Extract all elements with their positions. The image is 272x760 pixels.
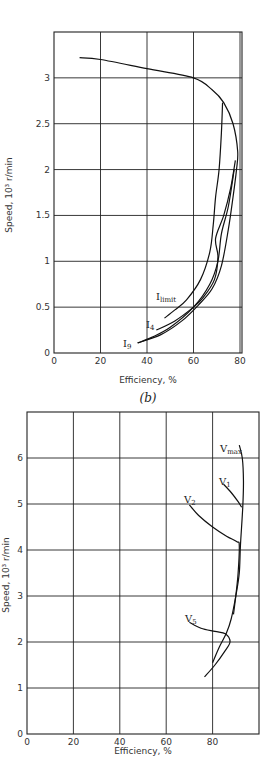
x-axis-label: Efficiency, % bbox=[114, 746, 172, 756]
x-axis-label: Efficiency, % bbox=[119, 375, 177, 385]
y-tick-label: 3 bbox=[17, 591, 23, 601]
series-label: I9 bbox=[123, 338, 131, 351]
y-tick-label: 0 bbox=[17, 729, 23, 739]
x-tick-label: 80 bbox=[207, 737, 219, 747]
plot-frame bbox=[54, 32, 242, 353]
x-tick-label: 80 bbox=[234, 356, 246, 366]
y-axis-label: Speed, 10³ r/min bbox=[4, 157, 14, 233]
x-tick-label: 40 bbox=[141, 356, 153, 366]
y-tick-label: 5 bbox=[17, 499, 23, 509]
series-label: V5 bbox=[184, 613, 197, 626]
curve-v-2 bbox=[189, 505, 239, 614]
x-tick-label: 20 bbox=[68, 737, 80, 747]
series-label: V1 bbox=[218, 476, 231, 489]
chart-subtitle: (b) bbox=[139, 391, 156, 405]
x-tick-label: 0 bbox=[51, 356, 57, 366]
curve-v-5 bbox=[189, 622, 230, 677]
chart-voltage: 0204060800123456Efficiency, %Speed, 10³ … bbox=[1, 412, 259, 756]
y-tick-label: 0 bbox=[44, 348, 50, 358]
y-axis-label: Speed, 10³ r/min bbox=[1, 537, 11, 613]
series-label: Ilimit bbox=[156, 291, 176, 304]
y-tick-label: 3 bbox=[44, 73, 50, 83]
x-tick-label: 0 bbox=[24, 737, 30, 747]
y-tick-label: 2.5 bbox=[36, 119, 50, 129]
y-tick-label: 6 bbox=[17, 453, 23, 463]
x-tick-label: 20 bbox=[95, 356, 107, 366]
y-tick-label: 0.5 bbox=[36, 302, 50, 312]
series-label: Vmax bbox=[219, 443, 242, 456]
y-tick-label: 1 bbox=[17, 683, 23, 693]
y-tick-label: 1.5 bbox=[36, 210, 50, 220]
y-tick-label: 1 bbox=[44, 256, 50, 266]
y-tick-label: 2 bbox=[44, 165, 50, 175]
chart-b-current: 02040608000.511.522.53Efficiency, %Speed… bbox=[4, 32, 246, 405]
y-tick-label: 4 bbox=[17, 545, 23, 555]
efficiency-speed-charts: 02040608000.511.522.53Efficiency, %Speed… bbox=[0, 0, 272, 760]
x-tick-label: 60 bbox=[188, 356, 200, 366]
plot-frame bbox=[27, 412, 259, 734]
y-tick-label: 2 bbox=[17, 637, 23, 647]
